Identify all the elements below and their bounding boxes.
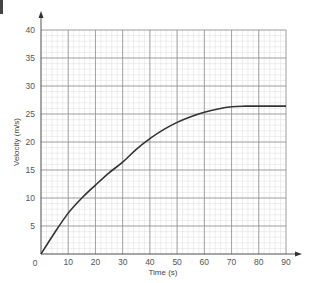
y-tick-label: 40 [26,25,36,35]
y-tick-label: 15 [26,165,36,175]
x-axis-title: Time (s) [148,268,177,277]
x-tick-labels: 102030405060708090 [63,257,291,267]
axes [39,11,303,257]
y-tick-label: 25 [26,109,36,119]
y-tick-labels: 510152025303540 [26,25,36,231]
x-axis-arrow-icon [295,252,302,257]
y-tick-label: 20 [26,137,36,147]
origin-label: 0 [33,258,38,268]
y-tick-label: 10 [26,193,36,203]
x-tick-label: 50 [172,257,182,267]
x-tick-label: 90 [281,257,291,267]
x-tick-label: 70 [227,257,237,267]
y-axis-arrow-icon [39,11,44,18]
x-tick-label: 40 [145,257,155,267]
y-axis-title: Velocity (m/s) [12,118,21,166]
x-tick-label: 10 [63,257,73,267]
x-tick-label: 20 [91,257,101,267]
x-tick-label: 80 [254,257,264,267]
x-tick-label: 30 [118,257,128,267]
velocity-time-chart: 102030405060708090 510152025303540 0 Tim… [0,0,318,283]
x-tick-label: 60 [200,257,210,267]
y-tick-label: 35 [26,53,36,63]
y-tick-label: 5 [30,221,35,231]
y-tick-label: 30 [26,81,36,91]
